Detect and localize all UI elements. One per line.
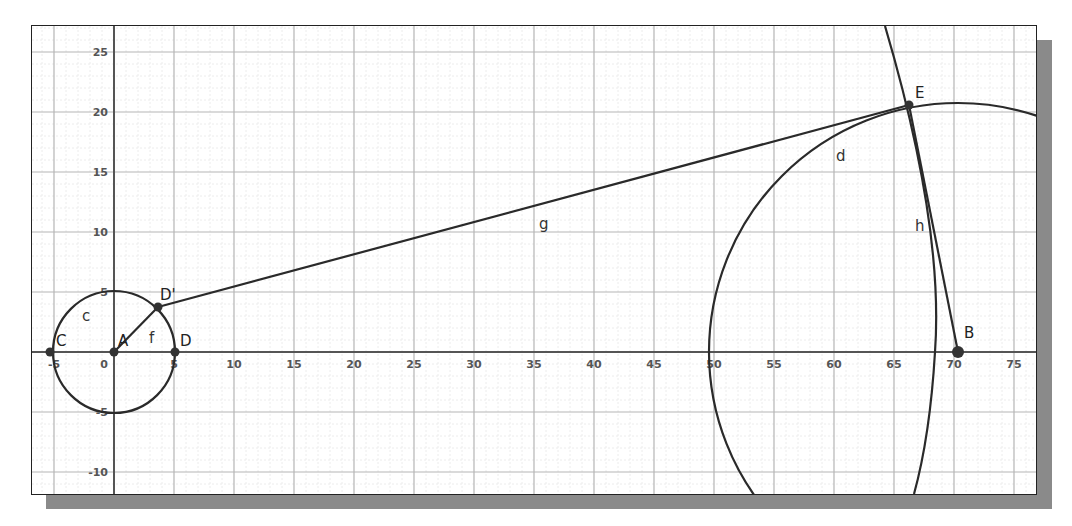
label-e: E <box>915 84 924 102</box>
tick-label: 75 <box>1006 358 1021 371</box>
tick-label: 20 <box>346 358 362 371</box>
label-a: A <box>118 332 129 350</box>
tick-label: -10 <box>88 466 108 479</box>
graphics-view[interactable]: -505101520253035404550556065707525201510… <box>31 25 1037 495</box>
tick-label: 65 <box>886 358 901 371</box>
point-d[interactable] <box>171 348 180 357</box>
tick-label: 60 <box>826 358 842 371</box>
tick-label: 10 <box>93 226 109 239</box>
label-d-circle: d <box>836 147 846 165</box>
label-f: f <box>149 329 155 347</box>
label-g: g <box>539 215 549 233</box>
tick-label: 15 <box>93 166 108 179</box>
tick-label: 45 <box>646 358 661 371</box>
canvas[interactable]: -505101520253035404550556065707525201510… <box>32 26 1036 494</box>
label-h: h <box>915 217 925 235</box>
point-c[interactable] <box>46 348 55 357</box>
label-b: B <box>964 324 974 342</box>
tick-label: 35 <box>526 358 541 371</box>
tick-labels: -505101520253035404550556065707525201510… <box>48 46 1022 479</box>
tick-label: 30 <box>466 358 482 371</box>
label-d-prime: D' <box>160 286 176 304</box>
tick-label: 40 <box>586 358 602 371</box>
tick-label: 15 <box>286 358 301 371</box>
tick-label: 20 <box>93 106 109 119</box>
label-c: C <box>56 332 66 350</box>
tick-label: 55 <box>766 358 781 371</box>
tick-label: 25 <box>406 358 421 371</box>
label-c-circle: c <box>82 307 90 325</box>
tick-label: 0 <box>100 358 108 371</box>
tick-label: 25 <box>93 46 108 59</box>
tick-label: 10 <box>226 358 242 371</box>
label-d: D <box>180 332 192 350</box>
point-b[interactable] <box>952 346 964 358</box>
tick-label: 70 <box>946 358 962 371</box>
point-e[interactable] <box>905 101 914 110</box>
circle-d[interactable] <box>709 103 1036 494</box>
